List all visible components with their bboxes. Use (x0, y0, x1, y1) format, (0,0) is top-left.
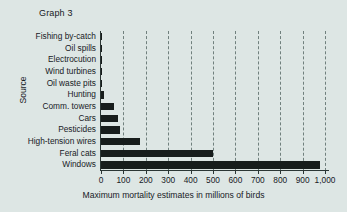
tick-mark (280, 170, 281, 174)
bar (101, 103, 114, 110)
category-label: Feral cats (2, 148, 96, 160)
bar (101, 161, 320, 168)
category-label: Fishing by-catch (2, 31, 96, 43)
tick-label: 400 (184, 175, 198, 185)
tick-mark (325, 170, 326, 174)
bar (101, 80, 102, 87)
category-label: Hunting (2, 89, 96, 101)
tick-label: 0 (99, 175, 104, 185)
bar (101, 33, 102, 40)
bar (101, 115, 118, 122)
category-label: Wind turbines (2, 66, 96, 78)
tick-label: 200 (139, 175, 153, 185)
bar-row: Fishing by-catch (101, 31, 325, 43)
bar-row: Pesticides (101, 124, 325, 136)
bar-row: Hunting (101, 89, 325, 101)
bar (101, 91, 104, 98)
tick-mark (213, 170, 214, 174)
tick-mark (191, 170, 192, 174)
tick-label: 700 (251, 175, 265, 185)
bar (101, 56, 102, 63)
bar-row: Cars (101, 113, 325, 125)
bar-row: High-tension wires (101, 136, 325, 148)
tick-mark (303, 170, 304, 174)
bar (101, 150, 213, 157)
tick-mark (101, 170, 102, 174)
bar (101, 68, 102, 75)
chart-title: Graph 3 (39, 8, 73, 18)
tick-label: 600 (228, 175, 242, 185)
tick-label: 100 (116, 175, 130, 185)
category-label: Oil waste pits (2, 78, 96, 90)
tick-label: 900 (296, 175, 310, 185)
bar-row: Electrocution (101, 54, 325, 66)
category-label: High-tension wires (2, 136, 96, 148)
bar-row: Oil spills (101, 43, 325, 55)
tick-label: 1,000 (315, 175, 336, 185)
tick-label: 500 (206, 175, 220, 185)
bar-row: Wind turbines (101, 66, 325, 78)
category-label: Windows (2, 159, 96, 171)
tick-mark (258, 170, 259, 174)
bar (101, 138, 140, 145)
plot-area: Fishing by-catchOil spillsElectrocutionW… (101, 31, 325, 171)
category-label: Cars (2, 113, 96, 125)
tick-mark (235, 170, 236, 174)
tick-mark (146, 170, 147, 174)
tick-mark (123, 170, 124, 174)
x-axis-title: Maximum mortality estimates in millions … (0, 190, 347, 200)
bar-row: Feral cats (101, 148, 325, 160)
category-label: Comm. towers (2, 101, 96, 113)
tick-label: 300 (161, 175, 175, 185)
category-label: Pesticides (2, 124, 96, 136)
tick-label: 800 (273, 175, 287, 185)
bar-row: Oil waste pits (101, 78, 325, 90)
gridline (325, 31, 326, 171)
bar (101, 45, 102, 52)
tick-mark (168, 170, 169, 174)
category-label: Oil spills (2, 43, 96, 55)
category-label: Electrocution (2, 54, 96, 66)
bar (101, 126, 120, 133)
bar-row: Comm. towers (101, 101, 325, 113)
bar-chart: Graph 3 Source Fishing by-catchOil spill… (0, 0, 347, 212)
